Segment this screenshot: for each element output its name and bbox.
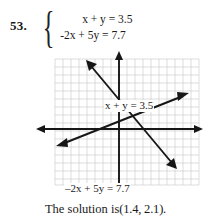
equation-list: x + y = 3.5 -2x + 5y = 7.7 <box>56 13 132 42</box>
solution-prefix: The solution is <box>45 202 119 216</box>
line1-upper-arrow-icon <box>86 60 97 71</box>
grid <box>55 59 199 185</box>
y-axis-top-arrow-icon <box>115 51 123 60</box>
graph-svg <box>0 44 211 196</box>
coordinate-graph: x + y = 3.5 –2x + 5y = 7.7 <box>0 44 211 196</box>
solution-sentence: The solution is(1.4, 2.1). <box>0 202 211 217</box>
graph-label-equation-2: –2x + 5y = 7.7 <box>64 183 131 195</box>
equation-2: -2x + 5y = 7.7 <box>60 29 132 42</box>
line-x-plus-y <box>86 60 177 169</box>
x-axis-right-arrow-icon <box>194 125 203 133</box>
graph-label-equation-1: x + y = 3.5 <box>104 100 154 112</box>
solution-point: (1.4, 2.1). <box>119 202 166 216</box>
line2-lower-arrow-icon <box>56 138 68 147</box>
system-of-equations: { x + y = 3.5 -2x + 5y = 7.7 <box>38 6 132 48</box>
problem-number: 53. <box>10 18 27 34</box>
line1-lower-arrow-icon <box>166 158 177 169</box>
x-axis-left-arrow-icon <box>36 125 45 133</box>
equation-1: x + y = 3.5 <box>60 13 132 26</box>
worksheet-page: 53. { x + y = 3.5 -2x + 5y = 7.7 <box>0 0 211 223</box>
